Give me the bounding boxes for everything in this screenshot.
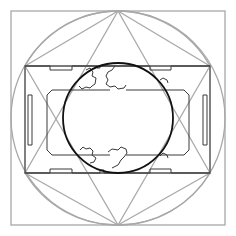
background (0, 0, 236, 236)
geometric-diagram (0, 0, 236, 236)
